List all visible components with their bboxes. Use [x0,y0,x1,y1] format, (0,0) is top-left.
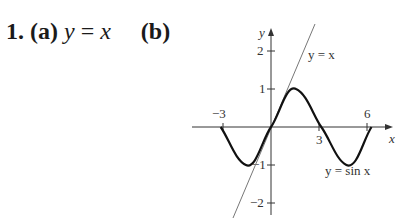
sin-x-chart: x y 2 1 −1 −2 −3 3 6 y = x y = sin x [0,0,405,220]
y-axis-arrow-icon [268,28,274,36]
label-y-equals-sin-x: y = sin x [325,163,371,178]
y-tick-label-1: 1 [259,81,266,96]
y-tick-label-neg1: −1 [252,157,266,172]
y-axis-label: y [257,25,265,40]
x-axis-label: x [388,131,395,146]
y-tick-label-2: 2 [257,43,264,58]
x-axis-arrow-icon [385,124,393,130]
x-tick-label-3: 3 [316,132,323,147]
x-tick-label-6: 6 [364,106,371,121]
label-y-equals-x: y = x [308,47,335,62]
y-tick-label-neg2: −2 [250,195,264,210]
x-tick-label-neg3: −3 [212,106,226,121]
